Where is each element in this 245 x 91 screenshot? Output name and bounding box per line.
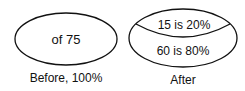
after-diagram: 15 is 20% 60 is 80% After [129,9,237,87]
after-bottom-text: 60 is 80% [157,44,210,58]
before-ellipse-text: of 75 [52,32,81,47]
after-caption: After [170,73,195,87]
before-diagram: of 75 Before, 100% [15,13,117,85]
after-top-text: 15 is 20% [158,18,211,32]
percent-diagram: of 75 Before, 100% 15 is 20% 60 is 80% A… [0,0,245,91]
before-caption: Before, 100% [30,71,103,85]
